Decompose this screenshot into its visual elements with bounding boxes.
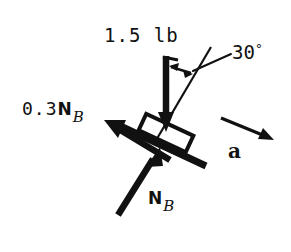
angle-double-arrow	[169, 63, 193, 78]
normal-force-symbol: N	[148, 188, 162, 208]
angle-label: 30°	[232, 42, 263, 62]
angle-leader-line	[193, 54, 231, 71]
normal-force-label: NB	[148, 189, 174, 214]
degree-symbol-icon: °	[255, 41, 263, 56]
friction-coefficient-value: 0.3	[22, 98, 58, 119]
angle-value: 30	[232, 41, 255, 63]
weight-label: 1.5 lb	[104, 26, 179, 45]
friction-force-subscript: B	[72, 108, 84, 126]
acceleration-label: a	[228, 141, 241, 161]
normal-force-subscript: B	[162, 197, 174, 215]
acceleration-arrow	[221, 118, 274, 140]
friction-force-label: 0.3NB	[22, 100, 84, 125]
free-body-diagram: 1.5 lb 30° 0.3NB NB a	[0, 0, 291, 252]
friction-force-symbol: N	[58, 99, 72, 119]
